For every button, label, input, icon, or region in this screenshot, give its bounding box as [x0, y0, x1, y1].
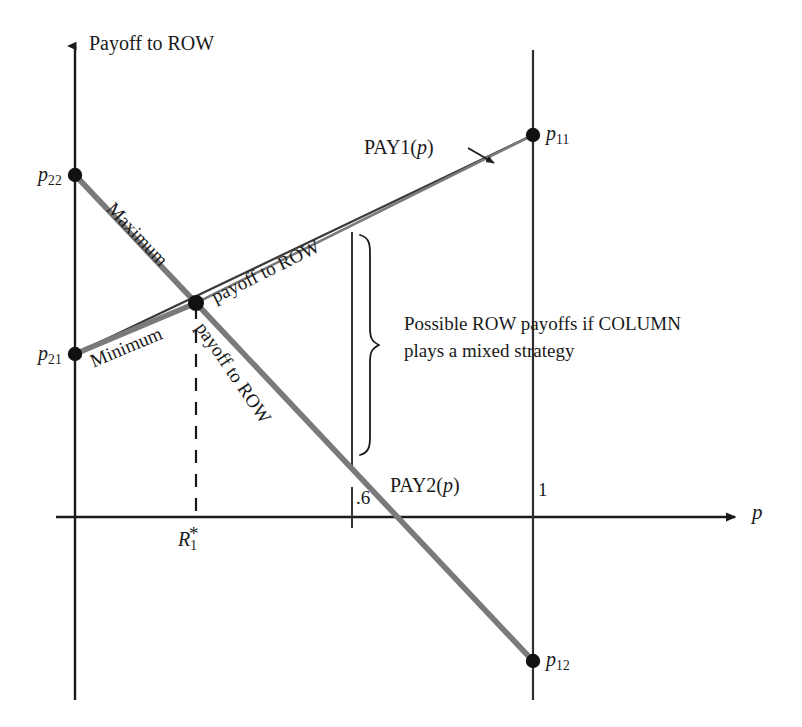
- point-p22: [68, 168, 82, 182]
- label-p11: p11: [546, 122, 570, 148]
- pay2-label: PAY2(p): [390, 474, 460, 498]
- upper-envelope-thick: [75, 135, 533, 303]
- pay1-label: PAY1(p): [364, 136, 434, 160]
- brace-annotation-line-1: Possible ROW payoffs if COLUMN: [404, 311, 681, 338]
- label-p22: p22: [38, 163, 62, 189]
- tick-label-one: 1: [538, 479, 548, 501]
- point-intersection: [188, 295, 204, 311]
- label-p12: p12: [546, 648, 570, 674]
- point-p12: [526, 654, 540, 668]
- diagram-canvas: [0, 0, 802, 727]
- payoff-diagram: Payoff to ROW p p22 p21 p11 p12 PAY1(p) …: [0, 0, 802, 727]
- payoff-range-brace: [360, 235, 379, 455]
- point-p21: [68, 347, 82, 361]
- brace-annotation-line-2: plays a mixed strategy: [404, 338, 574, 365]
- label-p21: p21: [38, 342, 62, 368]
- tick-label-r1-star: R1*: [178, 523, 199, 554]
- x-axis-variable-label: p: [752, 500, 763, 525]
- tick-label-point-six: .6: [356, 487, 370, 509]
- y-axis-title: Payoff to ROW: [89, 32, 214, 56]
- point-p11: [526, 128, 540, 142]
